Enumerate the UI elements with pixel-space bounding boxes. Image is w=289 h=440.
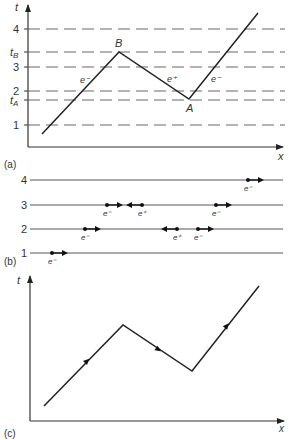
world-line-a	[42, 13, 258, 134]
particle-e-minus: e⁻	[48, 250, 68, 266]
svg-text:e⁺: e⁺	[138, 209, 147, 218]
panel-b-label: (b)	[4, 256, 16, 267]
segment-label-e-plus: e⁺	[167, 74, 178, 84]
panel-c-label: (c)	[4, 428, 16, 439]
tick-label-3: 3	[13, 61, 19, 73]
panel-b: 4 e⁻ 3 e⁻ e⁺ e⁻ 2	[4, 174, 283, 267]
particle-e-plus: e⁺	[161, 226, 182, 242]
tick-label-2: 2	[13, 85, 19, 97]
time-slice-label-2: 2	[21, 223, 27, 235]
time-slice-label-4: 4	[21, 174, 27, 186]
x-axis-label: x	[277, 150, 284, 162]
particle-e-minus: e⁻	[194, 226, 214, 242]
particle-e-minus: e⁻	[81, 226, 101, 242]
particle-e-minus: e⁻	[103, 202, 123, 218]
time-slice-label-1: 1	[21, 247, 27, 259]
segment-label-e-minus-1: e⁻	[80, 75, 91, 85]
tick-label-1: 1	[13, 119, 19, 131]
tick-label-tB: tB	[10, 46, 19, 60]
time-slice-label-3: 3	[21, 199, 27, 211]
svg-text:e⁻: e⁻	[244, 184, 253, 193]
svg-text:e⁻: e⁻	[103, 209, 112, 218]
feynman-diagram-figure: t x 4 tB 3 2 tA 1 B A e⁻	[0, 0, 289, 440]
tick-label-4: 4	[13, 23, 19, 35]
svg-text:e⁻: e⁻	[81, 233, 90, 242]
particle-e-minus: e⁻	[212, 202, 232, 218]
panel-a: t x 4 tB 3 2 tA 1 B A e⁻	[4, 1, 285, 170]
point-B-label: B	[115, 37, 122, 49]
t-axis-label: t	[17, 274, 21, 286]
panel-a-label: (a)	[4, 159, 16, 170]
x-axis-label: x	[278, 423, 285, 434]
svg-text:e⁻: e⁻	[48, 257, 57, 266]
t-axis-label: t	[15, 1, 19, 13]
svg-text:e⁻: e⁻	[212, 209, 221, 218]
panel-c: t x (c)	[4, 274, 285, 439]
point-A-label: A	[185, 102, 193, 114]
particle-e-plus: e⁺	[126, 202, 147, 218]
segment-label-e-minus-2: e⁻	[211, 74, 222, 84]
particle-e-minus: e⁻	[244, 177, 264, 193]
world-line-c	[44, 286, 259, 406]
svg-text:e⁻: e⁻	[194, 233, 203, 242]
svg-text:e⁺: e⁺	[173, 233, 182, 242]
